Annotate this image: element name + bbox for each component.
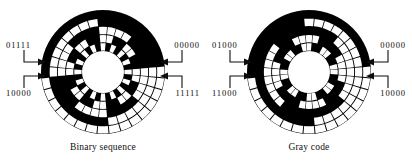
track-segment — [133, 69, 140, 76]
gray-disk-tracks — [247, 10, 371, 134]
track-segment — [58, 68, 65, 76]
track-segment — [50, 67, 57, 77]
binary-disk-svg — [39, 8, 167, 136]
binary-encoder-disk — [39, 8, 167, 136]
track-segment — [100, 93, 105, 100]
track-segment — [347, 68, 354, 76]
track-segment — [303, 126, 314, 134]
track-segment — [100, 43, 105, 50]
leader-top-right — [374, 50, 388, 62]
track-segment — [97, 126, 108, 134]
disk-hub — [82, 51, 124, 93]
leader-top-left — [230, 50, 244, 62]
track-segment — [66, 69, 73, 76]
leader-top-right — [168, 50, 182, 62]
gray-disk-svg — [245, 8, 373, 136]
track-segment — [280, 69, 287, 74]
track-segment — [100, 102, 107, 109]
track-segment — [100, 35, 107, 42]
panel-binary-sequence: 01111 10000 00000 11111 Binary sequence — [0, 0, 206, 168]
encoder-disk-figure: 01111 10000 00000 11111 Binary sequence — [0, 0, 412, 168]
code-label-bottom-left: 10000 — [6, 88, 32, 98]
track-segment — [330, 69, 337, 74]
panel-caption: Binary sequence — [0, 142, 206, 152]
leader-bottom-left — [24, 76, 38, 88]
binary-disk-tracks — [41, 10, 165, 134]
track-segment — [264, 68, 271, 76]
track-segment — [99, 110, 107, 117]
track-segment — [306, 43, 311, 50]
code-label-top-left: 01000 — [212, 40, 238, 50]
leader-bottom-left — [230, 76, 244, 88]
leader-bottom-right — [168, 76, 182, 88]
code-label-top-right: 00000 — [380, 40, 406, 50]
track-segment — [272, 69, 279, 76]
code-label-top-right: 00000 — [174, 40, 200, 50]
track-segment — [149, 67, 156, 77]
panel-caption: Gray code — [206, 142, 412, 152]
code-label-bottom-right: 11111 — [176, 88, 201, 98]
track-segment — [306, 102, 313, 109]
leader-bottom-right — [374, 76, 388, 88]
leader-top-left — [24, 50, 38, 62]
track-segment — [306, 93, 311, 100]
panel-gray-code: 01000 11000 00000 10000 Gray code — [206, 0, 412, 168]
code-label-bottom-right: 10000 — [380, 88, 406, 98]
track-segment — [304, 19, 314, 26]
track-segment — [306, 35, 313, 42]
track-segment — [74, 69, 81, 74]
disk-hub — [288, 51, 330, 93]
code-label-top-left: 01111 — [6, 40, 31, 50]
track-segment — [355, 67, 362, 77]
track-segment — [99, 27, 107, 34]
track-segment — [141, 68, 148, 76]
track-segment — [124, 69, 131, 74]
code-label-bottom-left: 11000 — [212, 88, 237, 98]
gray-encoder-disk — [245, 8, 373, 136]
track-segment — [339, 69, 346, 76]
track-segment — [157, 66, 165, 77]
track-segment — [363, 66, 371, 77]
